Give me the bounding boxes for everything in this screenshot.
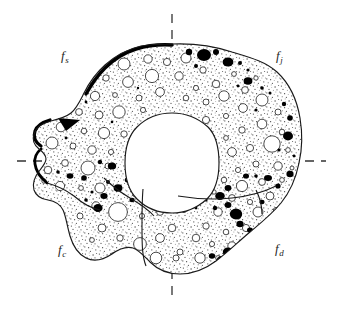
label-f-s-subscript: s bbox=[65, 55, 69, 65]
label-f-j: fj bbox=[276, 48, 283, 65]
label-f-c: fc bbox=[58, 242, 66, 259]
label-f-d: fd bbox=[275, 241, 284, 258]
label-f-d-subscript: d bbox=[279, 248, 284, 258]
label-f-s: fs bbox=[61, 48, 69, 65]
cross-section-diagram bbox=[0, 0, 342, 313]
label-f-j-subscript: j bbox=[280, 55, 283, 65]
figure-container: fs fj fc fd bbox=[0, 0, 342, 313]
annulus-body bbox=[33, 44, 302, 274]
label-f-c-subscript: c bbox=[62, 249, 67, 259]
central-bore bbox=[125, 113, 219, 213]
